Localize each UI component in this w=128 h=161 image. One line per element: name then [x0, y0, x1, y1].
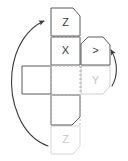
face-label-right-y-rotated: > — [92, 44, 98, 56]
face-bottom-blank-outline — [51, 95, 80, 125]
face-label-top-z: Z — [62, 16, 69, 28]
face-label-ghost-y: Y — [92, 74, 100, 86]
face-label-ghost-z: Z — [62, 133, 69, 145]
right-fold-arrow-icon — [111, 50, 116, 86]
face-left-blank-outline — [22, 66, 51, 94]
face-label-center-x: X — [62, 44, 70, 56]
box-net-diagram: Y Z Z X > — [0, 0, 128, 161]
net-diagram-canvas: Y Z Z X > — [0, 0, 128, 161]
